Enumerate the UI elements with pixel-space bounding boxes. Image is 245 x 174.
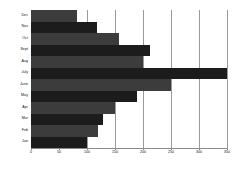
y-label-oct: Oct [22, 37, 28, 41]
bar-row [31, 68, 227, 80]
bar-dec[interactable] [31, 10, 77, 22]
y-label-feb: Feb [22, 129, 28, 133]
bar-row [31, 125, 227, 137]
y-label-dec: Dec [21, 14, 28, 18]
bar-may[interactable] [31, 91, 137, 103]
bar-mar[interactable] [31, 114, 103, 126]
y-axis-labels: JanFebMarAprMayJuneJulyAugSeptOctNovDec [0, 10, 28, 148]
y-label-apr: Apr [22, 106, 28, 110]
x-label-50: 50 [57, 151, 61, 155]
bar-apr[interactable] [31, 102, 115, 114]
bar-row [31, 56, 227, 68]
y-label-jan: Jan [22, 140, 28, 144]
x-axis-line [31, 148, 227, 149]
bar-nov[interactable] [31, 22, 97, 34]
bar-row [31, 91, 227, 103]
bar-july[interactable] [31, 68, 227, 80]
bar-feb[interactable] [31, 125, 98, 137]
bar-row [31, 137, 227, 149]
x-label-100: 100 [84, 151, 90, 155]
bar-sept[interactable] [31, 45, 150, 57]
bar-jan[interactable] [31, 137, 87, 149]
bar-row [31, 102, 227, 114]
bar-row [31, 22, 227, 34]
x-label-350: 350 [224, 151, 230, 155]
x-label-250: 250 [168, 151, 174, 155]
y-label-july: July [21, 71, 28, 75]
bar-row [31, 10, 227, 22]
bar-row [31, 45, 227, 57]
y-label-june: June [20, 83, 28, 87]
bar-june[interactable] [31, 79, 171, 91]
bar-row [31, 114, 227, 126]
gridline-350 [227, 10, 228, 148]
bar-aug[interactable] [31, 56, 143, 68]
x-label-300: 300 [196, 151, 202, 155]
bar-row [31, 79, 227, 91]
bar-chart: JanFebMarAprMayJuneJulyAugSeptOctNovDec … [0, 0, 245, 174]
y-label-sept: Sept [20, 48, 28, 52]
x-label-0: 0 [30, 151, 32, 155]
x-label-150: 150 [112, 151, 118, 155]
bar-oct[interactable] [31, 33, 119, 45]
bar-row [31, 33, 227, 45]
x-axis-labels: 050100150200250300350 [31, 151, 227, 163]
plot-area [31, 10, 227, 148]
y-label-may: May [21, 94, 28, 98]
x-label-200: 200 [140, 151, 146, 155]
y-label-aug: Aug [21, 60, 28, 64]
y-label-nov: Nov [21, 25, 28, 29]
y-label-mar: Mar [22, 117, 28, 121]
